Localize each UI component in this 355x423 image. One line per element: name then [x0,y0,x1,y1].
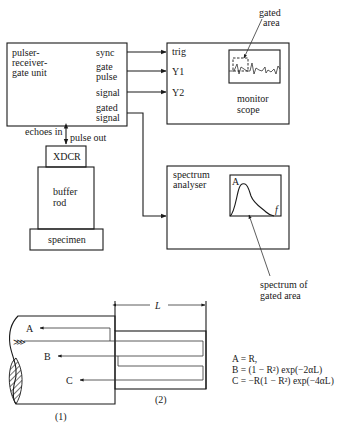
incident-wave-chevrons: ⋙ [13,337,26,347]
gated-area-annotation-2: area [263,17,280,28]
transducer-stack: echoes in pulse out XDCR buffer rod spec… [25,126,107,250]
scope-screen [229,50,280,83]
buffer-label-1: buffer [53,186,78,197]
echoes-in-label: echoes in [25,126,63,137]
spectrum-pointer [249,215,270,276]
ray-b-path [58,341,203,356]
spectrum-curve [230,184,274,216]
input-y1-label: Y1 [172,66,184,77]
region-1-label: (1) [55,411,67,423]
pulse-out-label: pulse out [70,132,107,143]
monitor-scope: trig Y1 Y2 gated area monitor scope [167,7,289,124]
ray-b-label: B [44,351,51,362]
buffer-label-2: rod [53,197,66,208]
hatched-section [9,358,22,404]
spectrum-axis-f: f [275,204,279,215]
gated-area-pointer [244,19,262,58]
spectrum-analyser: spectrum analyser A f spectrum of gated … [167,166,308,301]
input-y2-label: Y2 [172,87,184,98]
reflection-diagram: L ⋙ A B C (1) (2) A = R, B = (1 − R²) ex… [9,300,334,423]
monitor-label-2: scope [237,104,260,115]
pulser-title-line-3: gate unit [12,67,47,78]
measurement-setup-diagram: pulser- receiver- gate unit sync gate pu… [0,0,355,423]
ray-c-label: C [66,375,73,386]
spectrum-annotation-1: spectrum of [260,279,308,290]
port-gate-label-2: pulse [96,71,118,82]
equation-c: C = −R(1 − R²) exp(−4αL) [232,376,334,387]
input-trig-label: trig [172,46,186,57]
equation-b: B = (1 − R²) exp(−2αL) [232,365,322,376]
pulser-receiver-gate-unit: pulser- receiver- gate unit sync gate pu… [7,43,127,126]
ray-a-path [24,328,110,341]
gated-signal-to-analyser-arrow [127,113,166,216]
signal-connections [127,52,166,216]
port-sync-label: sync [96,47,115,58]
region-2-label: (2) [155,394,167,406]
equation-a: A = R, [232,354,257,364]
dimension-l-label: L [154,300,161,311]
ray-a-label: A [26,323,34,334]
scope-trace [229,63,280,74]
xdcr-label: XDCR [53,151,81,162]
spectrum-annotation-2: gated area [260,290,301,301]
ray-c-path [80,356,203,380]
analyser-label-2: analyser [173,179,207,190]
monitor-label-1: monitor [237,93,269,104]
specimen-label: specimen [48,234,86,245]
port-gated-label-2: signal [96,112,120,123]
port-signal-label: signal [96,87,120,98]
spectrum-axis-a: A [232,176,240,187]
